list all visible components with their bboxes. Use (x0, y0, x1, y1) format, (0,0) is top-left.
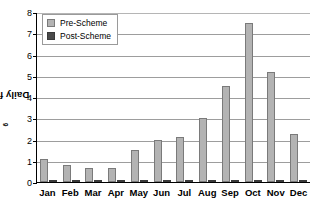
y-tick-label-2: 2 (27, 136, 32, 146)
bar-feb-pre-scheme (63, 165, 71, 182)
legend-swatch-post-icon (47, 32, 55, 40)
y-axis-tick-labels: 012345678 (18, 13, 34, 183)
bar-jun-post-scheme (163, 180, 171, 182)
x-tick-label-mar: Mar (82, 186, 105, 206)
y-tick-label-6: 6 (27, 51, 32, 61)
bar-may-pre-scheme (131, 150, 139, 182)
x-tick-label-jul: Jul (173, 186, 196, 206)
bar-sep-pre-scheme (222, 86, 230, 182)
bar-oct-pre-scheme (245, 23, 253, 182)
y-axis-title-exponent: 6 (2, 122, 9, 126)
y-tick-label-8: 8 (27, 8, 32, 18)
y-tick-label-0: 0 (27, 178, 32, 188)
bar-oct-post-scheme (254, 180, 262, 182)
x-axis-tick-labels: JanFebMarAprMayJunJulAugSepOctNovDec (36, 186, 310, 206)
bar-jul-post-scheme (185, 180, 193, 182)
legend: Pre-Scheme Post-Scheme (42, 14, 118, 45)
bar-dec-post-scheme (299, 180, 307, 182)
bar-group-jun (151, 13, 174, 182)
bar-group-oct (242, 13, 265, 182)
legend-label-post-scheme: Post-Scheme (60, 31, 111, 41)
x-tick-label-sep: Sep (219, 186, 242, 206)
x-tick-label-feb: Feb (59, 186, 82, 206)
y-tick-label-1: 1 (27, 157, 32, 167)
bar-aug-post-scheme (208, 180, 216, 182)
bar-dec-pre-scheme (290, 134, 298, 182)
x-tick-label-jan: Jan (36, 186, 59, 206)
bar-group-dec (287, 13, 310, 182)
legend-swatch-pre-icon (47, 19, 55, 27)
bar-group-sep (219, 13, 242, 182)
bar-jan-pre-scheme (40, 159, 48, 182)
bar-apr-post-scheme (117, 180, 125, 182)
x-tick-label-dec: Dec (287, 186, 310, 206)
x-tick-label-jun: Jun (150, 186, 173, 206)
bar-apr-pre-scheme (108, 168, 116, 182)
y-tick-label-4: 4 (27, 93, 32, 103)
y-tick-label-5: 5 (27, 72, 32, 82)
bar-jul-pre-scheme (176, 137, 184, 182)
bar-may-post-scheme (140, 180, 148, 182)
bar-nov-pre-scheme (267, 72, 275, 183)
bar-group-may (128, 13, 151, 182)
bar-mar-post-scheme (94, 180, 102, 182)
y-tick-label-7: 7 (27, 29, 32, 39)
y-axis-title: Daily flow (106 m³) (0, 0, 18, 190)
x-tick-label-apr: Apr (104, 186, 127, 206)
bar-aug-pre-scheme (199, 118, 207, 182)
bar-group-nov (265, 13, 288, 182)
bar-chart: Daily flow (106 m³) 012345678 JanFebMarA… (0, 0, 314, 211)
bar-nov-post-scheme (276, 180, 284, 182)
legend-item-post-scheme: Post-Scheme (47, 31, 111, 41)
bar-group-jul (174, 13, 197, 182)
bar-group-aug (196, 13, 219, 182)
bar-jun-pre-scheme (154, 140, 162, 183)
bar-mar-pre-scheme (85, 168, 93, 182)
y-tick-label-3: 3 (27, 114, 32, 124)
bar-feb-post-scheme (72, 180, 80, 182)
legend-item-pre-scheme: Pre-Scheme (47, 18, 111, 28)
x-tick-label-aug: Aug (196, 186, 219, 206)
y-tickmark-0 (33, 183, 37, 184)
bar-jan-post-scheme (49, 180, 57, 182)
x-tick-label-oct: Oct (241, 186, 264, 206)
x-tick-label-nov: Nov (264, 186, 287, 206)
x-tick-label-may: May (127, 186, 150, 206)
bar-sep-post-scheme (231, 180, 239, 182)
legend-label-pre-scheme: Pre-Scheme (60, 18, 107, 28)
